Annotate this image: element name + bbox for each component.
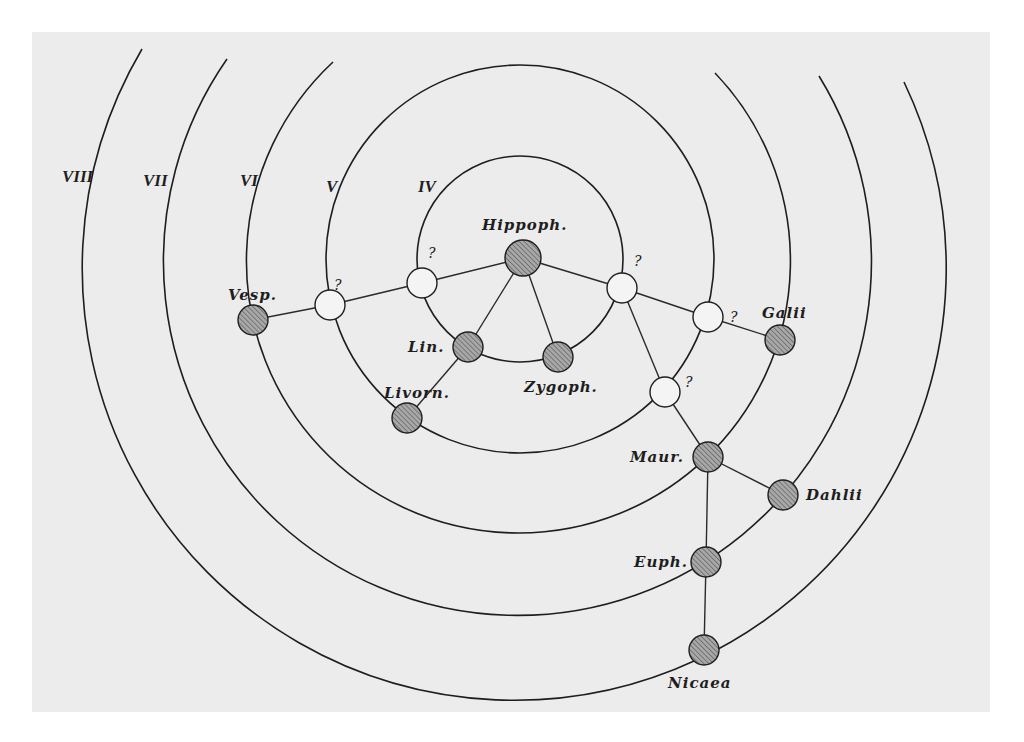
taxon-node-livorn (392, 403, 422, 433)
label-q2: ? (334, 277, 342, 293)
ring-label-V: V (326, 177, 339, 196)
label-hippoph: Hippoph. (481, 216, 567, 234)
unknown-node-q2 (315, 290, 345, 320)
ring-label-IV: IV (417, 177, 438, 196)
ring-label-VI: VI (240, 171, 259, 190)
label-livorn: Livorn. (383, 384, 450, 402)
label-q3: ? (634, 253, 642, 269)
label-dahlii: Dahlii (805, 486, 863, 504)
unknown-node-q5 (650, 377, 680, 407)
taxon-node-galii (765, 325, 795, 355)
ring-label-VII: VII (143, 171, 169, 190)
ring-VIII (82, 49, 946, 700)
label-maur: Maur. (629, 448, 684, 466)
taxon-labels: Hippoph.Lin.Zygoph.Livorn.Vesp.GaliiMaur… (228, 216, 863, 692)
label-lin: Lin. (407, 338, 444, 356)
taxon-node-euph (691, 547, 721, 577)
label-q5: ? (685, 374, 693, 390)
taxon-node-dahlii (768, 480, 798, 510)
taxon-node-maur (693, 442, 723, 472)
label-vesp: Vesp. (228, 286, 277, 304)
edge-maur-euph (706, 457, 708, 562)
label-q1: ? (428, 245, 436, 261)
unknown-node-q3 (607, 273, 637, 303)
unknown-node-q1 (407, 268, 437, 298)
ring-numeral-labels: IVVVIVIIVIII (62, 167, 438, 196)
taxon-node-hippoph (505, 240, 541, 276)
taxon-node-vesp (238, 305, 268, 335)
taxon-node-nicaea (689, 635, 719, 665)
label-galii: Galii (762, 304, 807, 322)
taxon-node-zygoph (543, 342, 573, 372)
edge-q3-q5 (622, 288, 665, 392)
generation-rings (82, 49, 946, 700)
taxon-node-lin (453, 332, 483, 362)
label-zygoph: Zygoph. (523, 378, 598, 396)
phylogeny-ring-diagram: IVVVIVIIVIII Hippoph.Lin.Zygoph.Livorn.V… (0, 0, 1024, 742)
ring-label-VIII: VIII (62, 167, 95, 186)
label-nicaea: Nicaea (667, 674, 732, 692)
unknown-node-q4 (693, 302, 723, 332)
label-euph: Euph. (633, 553, 688, 571)
label-q4: ? (730, 309, 738, 325)
